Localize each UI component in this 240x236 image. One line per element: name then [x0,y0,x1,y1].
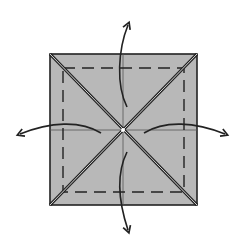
origami-diagram [0,0,240,236]
center-point [121,128,125,132]
